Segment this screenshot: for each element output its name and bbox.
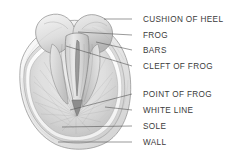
label-cleft-of-frog: CLEFT OF FROG (143, 62, 213, 71)
label-frog: FROG (143, 31, 168, 40)
label-white-line: WHITE LINE (143, 106, 193, 115)
label-cushion-of-heel: CUSHION OF HEEL (143, 15, 223, 24)
label-point-of-frog: POINT OF FROG (143, 90, 212, 99)
label-bars: BARS (143, 46, 167, 55)
hoof-sole-illustration (0, 0, 239, 163)
hoof-anatomy-figure: CUSHION OF HEELFROGBARSCLEFT OF FROGPOIN… (0, 0, 239, 163)
label-wall: WALL (143, 138, 166, 147)
label-sole: SOLE (143, 122, 166, 131)
